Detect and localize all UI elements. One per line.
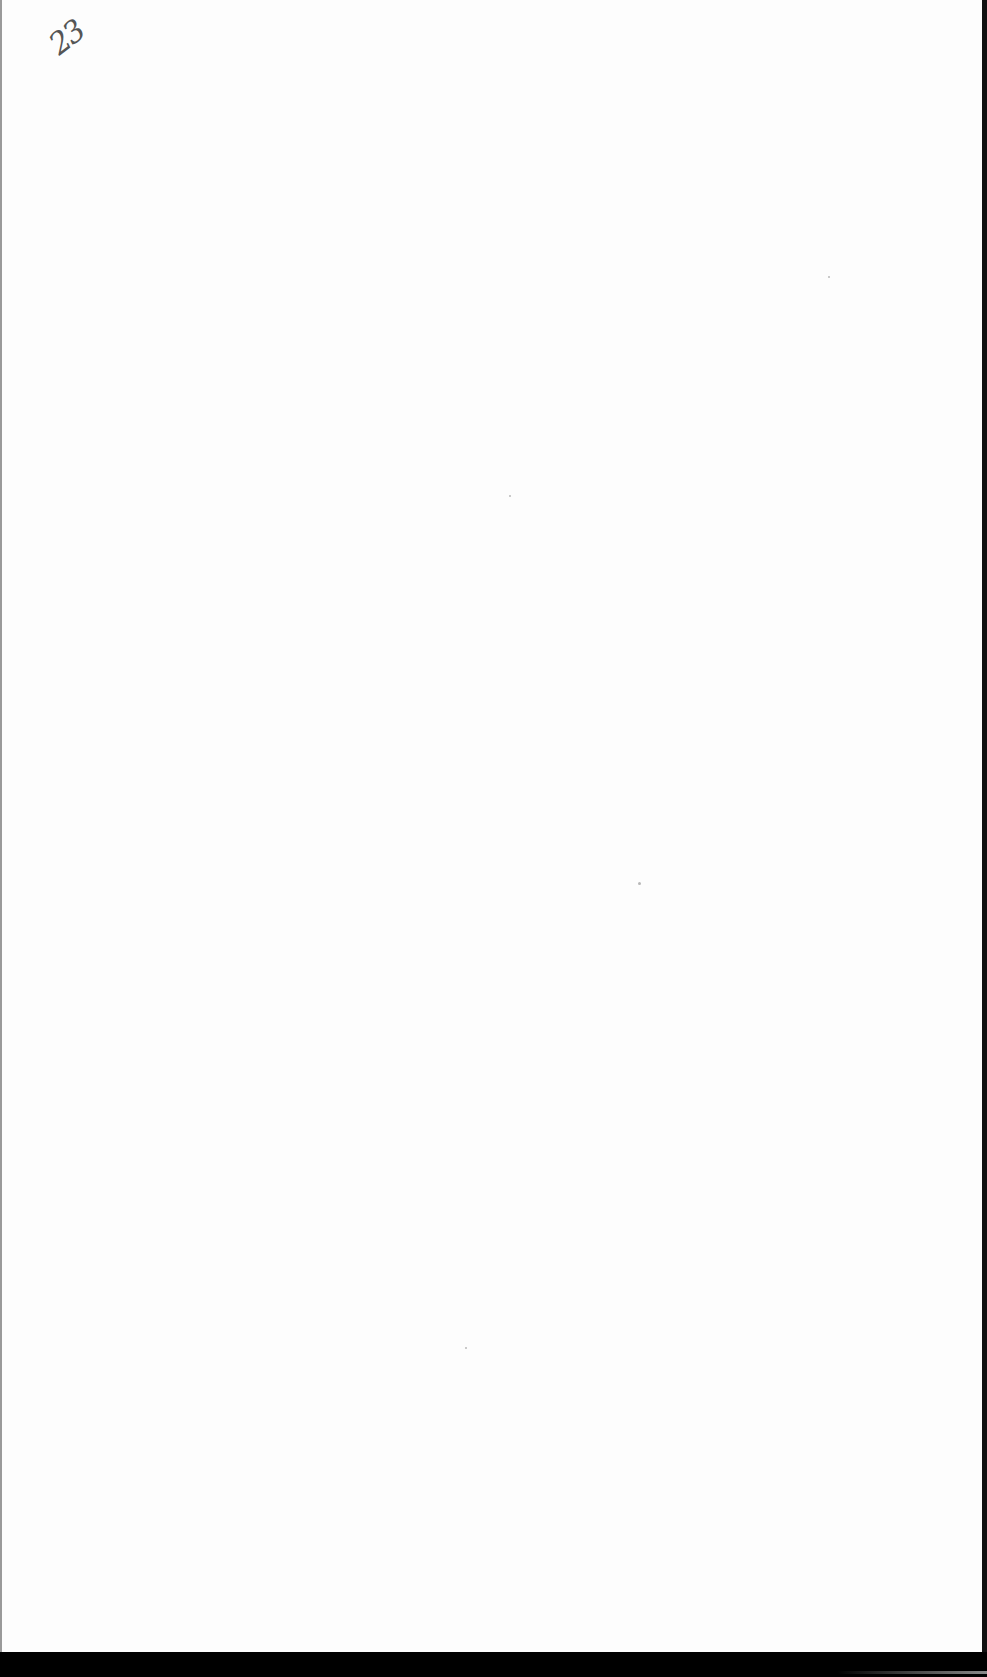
scanned-page: 23 bbox=[0, 0, 987, 1677]
scan-right-edge bbox=[982, 0, 987, 1652]
handwritten-page-number: 23 bbox=[42, 13, 90, 62]
dust-speck bbox=[638, 882, 641, 885]
dust-speck bbox=[509, 495, 511, 497]
paper-sheet: 23 bbox=[0, 0, 982, 1652]
dust-speck bbox=[828, 276, 830, 278]
scan-bottom-border bbox=[0, 1652, 987, 1677]
dust-speck bbox=[465, 1347, 467, 1349]
scanner-glint bbox=[837, 1671, 987, 1674]
